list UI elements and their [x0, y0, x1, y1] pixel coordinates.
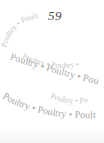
spiral-text-top: Poultry • Poultry: [0, 0, 40, 48]
spiral-text-front-1: Poultry • Poultry • Poultry: [0, 0, 100, 86]
poultry-spiral-ribbon: Poultry • Poultry Poultry • Poultry • Po…: [0, 0, 104, 143]
